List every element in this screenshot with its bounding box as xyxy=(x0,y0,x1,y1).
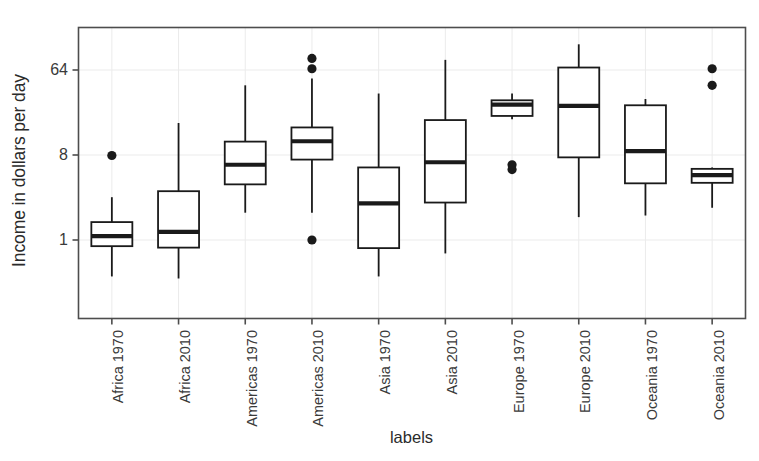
box-iqr xyxy=(291,127,332,159)
box-iqr xyxy=(358,167,399,248)
x-tick-label-americas-1970: Americas 1970 xyxy=(244,330,260,427)
boxplot-asia-1970 xyxy=(358,94,399,277)
boxplot-oceania-1970 xyxy=(625,99,666,216)
outlier-point xyxy=(708,64,717,73)
outlier-point xyxy=(507,160,516,169)
boxplot-asia-2010 xyxy=(425,60,466,254)
boxplot-americas-1970 xyxy=(225,85,266,212)
boxplot-figure: Income in dollars per day 6481 Africa 19… xyxy=(0,0,759,461)
x-axis-title: labels xyxy=(78,428,745,447)
x-tick-label-africa-2010: Africa 2010 xyxy=(177,330,193,403)
outlier-point xyxy=(307,54,316,63)
x-tick-label-asia-1970: Asia 1970 xyxy=(377,330,393,395)
x-tick-label-europe-2010: Europe 2010 xyxy=(577,330,593,413)
box-iqr xyxy=(158,191,199,247)
boxplot-europe-2010 xyxy=(558,44,599,217)
boxplot-africa-2010 xyxy=(158,123,199,278)
x-tick-label-oceania-1970: Oceania 1970 xyxy=(644,330,660,420)
outlier-point xyxy=(708,81,717,90)
x-tick-label-americas-2010: Americas 2010 xyxy=(310,330,326,427)
x-tick-label-europe-1970: Europe 1970 xyxy=(511,330,527,413)
x-tick-label-africa-1970: Africa 1970 xyxy=(110,330,126,403)
x-tick-label-oceania-2010: Oceania 2010 xyxy=(711,330,727,420)
x-tick-label-asia-2010: Asia 2010 xyxy=(444,330,460,395)
outlier-point xyxy=(307,64,316,73)
box-iqr xyxy=(625,105,666,183)
box-iqr xyxy=(558,68,599,158)
outlier-point xyxy=(107,151,116,160)
outlier-point xyxy=(307,235,316,244)
